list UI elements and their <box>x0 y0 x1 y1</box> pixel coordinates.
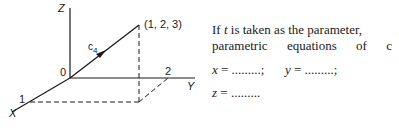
x-tick-label: 1 <box>19 94 25 105</box>
origin-label: 0 <box>60 67 66 78</box>
3d-axes-figure: Z (1, 2, 3) c4 0 2 Y 1 X <box>0 0 200 140</box>
point-label: (1, 2, 3) <box>144 19 182 30</box>
curve-label: c4 <box>88 42 97 55</box>
text-line-1: If t is taken as the parameter, <box>212 22 362 38</box>
text-line-2: parametric equations of c <box>212 38 392 54</box>
y-axis-label: Y <box>187 81 194 92</box>
equation-x: x = .........; <box>212 62 264 77</box>
y-tick-label: 2 <box>165 66 171 77</box>
z-axis-label: Z <box>58 3 65 14</box>
equation-z: z = ......... <box>212 85 260 101</box>
x-axis-label: X <box>9 108 16 119</box>
equation-x-y: x = .........; y = .........; <box>212 62 337 78</box>
equation-y: y = .........; <box>285 62 337 77</box>
